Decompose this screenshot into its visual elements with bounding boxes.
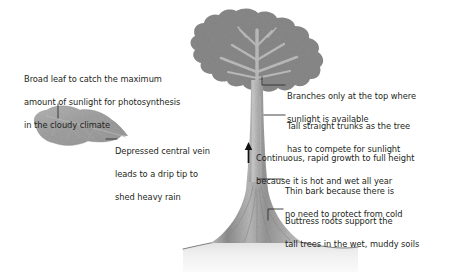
annotation-tall-trunks-line-1: Tall straight trunks as the tree (287, 121, 410, 132)
annotation-rapid-growth-line-1: Continuous, rapid growth to full height (256, 153, 415, 164)
annotation-broad-leaf-line-2: amount of sunlight for photosynthesis (24, 97, 180, 108)
annotation-central-vein-line-3: shed heavy rain (115, 192, 210, 203)
annotation-buttress-roots-line-2: tall trees in the wet, muddy soils (285, 239, 419, 250)
annotation-broad-leaf-line-3: in the cloudy climate (24, 120, 180, 131)
annotation-broad-leaf: Broad leaf to catch the maximum amount o… (24, 63, 180, 143)
annotation-central-vein-line-2: leads to a drip tip to (115, 169, 210, 180)
annotation-central-vein-line-1: Depressed central vein (115, 146, 210, 157)
rainforest-tree-diagram: Broad leaf to catch the maximum amount o… (0, 0, 463, 278)
annotation-broad-leaf-line-1: Broad leaf to catch the maximum (24, 74, 180, 85)
annotation-central-vein: Depressed central vein leads to a drip t… (115, 135, 210, 215)
annotation-buttress-roots-line-1: Buttress roots support the (285, 216, 419, 227)
annotation-branches-line-1: Branches only at the top where (287, 91, 416, 102)
annotation-thin-bark-line-1: Thin bark because there is (285, 186, 402, 197)
annotation-buttress-roots: Buttress roots support the tall trees in… (285, 205, 419, 262)
